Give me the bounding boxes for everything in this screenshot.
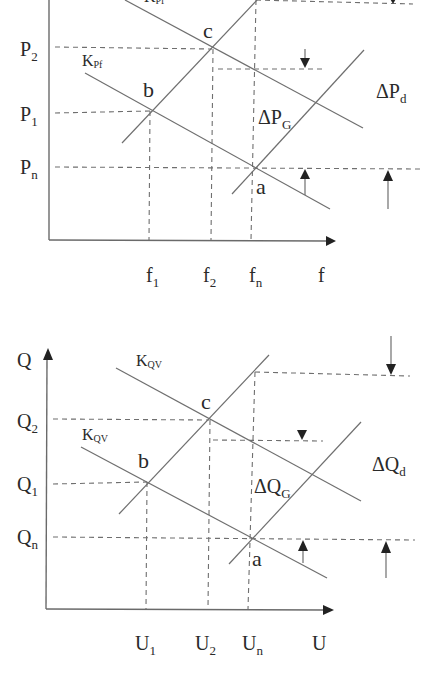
qu-lower-k-line <box>81 447 327 578</box>
pf-pn-label: Pn <box>20 156 38 182</box>
pf-big-up-arrow-icon <box>383 170 393 181</box>
qu-q2-guide <box>53 419 209 420</box>
qu-diagram: Q Q2 Q1 Qn U1 U2 Un U KQV KQV c b a ΔQG … <box>17 336 415 658</box>
pf-fn-label: fn <box>249 264 263 290</box>
pf-p1-label: P1 <box>20 103 38 129</box>
pf-f1-guide <box>149 111 150 240</box>
qu-y-axis-arrow-icon <box>43 348 53 360</box>
pf-gen-line-left <box>122 0 258 143</box>
qu-y-axis <box>46 358 47 609</box>
qu-delta-qd-label: ΔQd <box>372 453 406 479</box>
qu-x-axis <box>46 609 325 610</box>
pf-gen-line-right <box>232 50 364 194</box>
pf-big-down-arrow-icon <box>388 0 398 4</box>
qu-small-up-arrow-icon <box>298 540 308 551</box>
qu-u1-guide <box>146 482 147 609</box>
qu-big-down-arrow-icon <box>386 364 396 375</box>
qu-q1-label: Q1 <box>17 473 38 499</box>
pf-small-up-arrow-icon <box>300 169 310 179</box>
qu-q1-guide <box>53 482 147 484</box>
pf-upper-k-line <box>125 0 363 128</box>
qu-top-guide <box>255 372 410 376</box>
pf-diagram: P2 P1 Pn f1 f2 fn f KPf KPf c b a ΔPG ΔP… <box>20 0 420 290</box>
qu-q2-label: Q2 <box>17 410 38 436</box>
qu-qn-guide <box>53 537 415 540</box>
qu-u2-label: U2 <box>195 632 216 658</box>
pf-lower-k-line <box>85 73 330 209</box>
qu-lower-k-label: KQV <box>82 426 109 444</box>
qu-point-b: b <box>138 448 149 473</box>
pf-p1-guide <box>55 111 150 113</box>
pf-f1-label: f1 <box>146 264 159 290</box>
pf-top-guide <box>256 0 413 4</box>
pf-p2-guide <box>55 47 212 49</box>
qu-small-down-arrow-icon <box>297 430 307 440</box>
qu-point-c: c <box>201 389 211 414</box>
qu-gen-line-left <box>119 355 269 514</box>
pf-small-down-arrow-icon <box>300 58 310 68</box>
pf-lower-k-label: KPf <box>82 52 103 70</box>
qu-upper-k-label: KQV <box>136 352 163 370</box>
qu-point-a: a <box>252 546 262 571</box>
pf-fn-guide <box>251 0 256 240</box>
pf-point-a: a <box>256 174 266 199</box>
pf-x-axis <box>49 240 328 241</box>
qu-u1-label: U1 <box>135 632 156 658</box>
pf-upper-k-label: KPf <box>144 0 165 6</box>
qu-delta-qg-label: ΔQG <box>254 475 291 501</box>
pf-delta-pd-label: ΔPd <box>376 80 407 106</box>
pf-f-axis-label: f <box>318 264 325 286</box>
qu-mid-guide <box>213 440 323 441</box>
diagram-canvas: P2 P1 Pn f1 f2 fn f KPf KPf c b a ΔPG ΔP… <box>0 0 438 690</box>
pf-point-c: c <box>203 18 213 43</box>
qu-un-label: Un <box>242 632 263 658</box>
qu-u-axis-label: U <box>312 632 327 654</box>
pf-x-axis-arrow-icon <box>326 236 336 246</box>
pf-pn-guide <box>55 167 420 169</box>
pf-point-b: b <box>143 77 154 102</box>
pf-f2-label: f2 <box>203 264 216 290</box>
qu-x-axis-arrow-icon <box>323 605 334 615</box>
qu-qn-label: Qn <box>17 526 38 552</box>
qu-q-axis-label: Q <box>17 349 32 371</box>
pf-delta-pg-label: ΔPG <box>258 106 291 132</box>
qu-gen-line-right <box>229 422 361 564</box>
qu-big-up-arrow-icon <box>381 541 391 553</box>
pf-p2-label: P2 <box>20 38 38 64</box>
